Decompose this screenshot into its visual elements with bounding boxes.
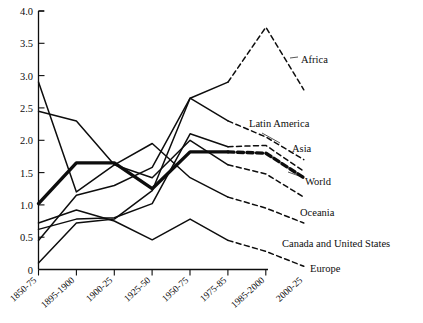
- x-tick-label: 1850-75: [8, 275, 38, 304]
- y-tick-label: 2.5: [20, 103, 33, 114]
- x-axis-tick-labels: 1850-75 1895-1900 1900-25 1925-50 1950-7…: [8, 275, 304, 310]
- series-label-world: World: [305, 176, 332, 187]
- series-label-latin-america: Latin America: [249, 118, 310, 129]
- series-line-canada-and-united-states-historical: [39, 82, 229, 197]
- x-tick-label: 1950-75: [160, 275, 190, 304]
- y-axis-tick-labels: 4.0 3.5 3.0 2.5 2.0 1.5 1.0 0.5 0: [20, 6, 33, 276]
- y-tick-label: 0.5: [20, 232, 33, 243]
- x-tick-label: 1895-1900: [39, 275, 76, 310]
- series-line-europe-historical: [39, 210, 229, 240]
- x-tick-label: 1975-85: [198, 275, 228, 304]
- y-tick-label: 1.0: [20, 200, 33, 211]
- series-line-asia-historical: [39, 134, 229, 230]
- series-line-world-historical: [39, 152, 229, 204]
- y-tick-label: 0: [28, 265, 33, 276]
- leader-africa: [290, 57, 298, 58]
- y-tick-label: 2.0: [20, 135, 33, 146]
- series-labels: Africa Latin America Asia World Oceania …: [249, 54, 390, 274]
- series-label-europe: Europe: [310, 263, 341, 274]
- leader-asia: [262, 133, 280, 143]
- series-layer: [39, 27, 304, 266]
- x-tick-marks: [39, 270, 266, 276]
- x-tick-label: 2000-25: [274, 275, 304, 304]
- x-tick-label: 1900-25: [84, 275, 114, 304]
- series-label-canada-us: Canada and United States: [282, 238, 390, 249]
- axis-group: [39, 11, 269, 270]
- series-label-asia: Asia: [292, 143, 312, 154]
- label-leader-lines: [262, 57, 302, 177]
- y-tick-label: 4.0: [20, 6, 33, 17]
- series-line-latin-america-historical: [39, 98, 229, 240]
- series-line-canada-and-united-states-projection: [228, 197, 304, 223]
- chart-figure: 4.0 3.5 3.0 2.5 2.0 1.5 1.0 0.5 0 1850-7…: [0, 0, 423, 323]
- y-tick-label: 1.5: [20, 168, 33, 179]
- series-label-africa: Africa: [301, 54, 328, 65]
- line-chart-canvas: 4.0 3.5 3.0 2.5 2.0 1.5 1.0 0.5 0 1850-7…: [0, 0, 423, 323]
- y-tick-label: 3.0: [20, 71, 33, 82]
- series-line-africa-projection: [228, 27, 304, 90]
- x-tick-label: 1985-2000: [229, 275, 266, 310]
- series-label-oceania: Oceania: [300, 207, 335, 218]
- y-tick-label: 3.5: [20, 38, 33, 49]
- series-line-oceania-historical: [39, 111, 229, 178]
- x-tick-label: 1925-50: [122, 275, 152, 304]
